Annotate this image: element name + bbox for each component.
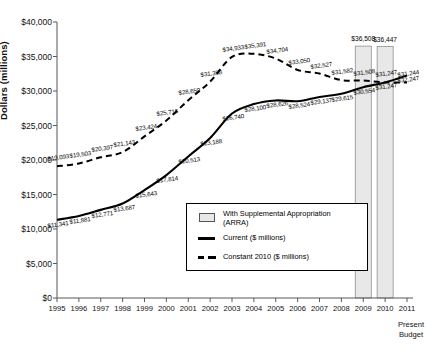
chart-legend: With Supplemental Appropriation (ARRA) C… xyxy=(186,203,368,271)
y-axis-tick-label: $15,000 xyxy=(4,190,52,200)
legend-bar-label-line1: With Supplemental Appropriation xyxy=(223,209,331,218)
y-axis-tick-label: $25,000 xyxy=(4,121,52,131)
y-axis-tick-label: $40,000 xyxy=(4,17,52,27)
y-axis-tick-label: $10,000 xyxy=(4,224,52,234)
y-axis-tick-label: $35,000 xyxy=(4,52,52,62)
legend-bar-swatch xyxy=(199,213,215,222)
x-axis-tick-label: 2011 xyxy=(394,304,420,313)
legend-dashed-swatch xyxy=(198,256,216,259)
present-budget-note: PresentBudget xyxy=(391,320,431,340)
y-axis-tick-label: $0 xyxy=(4,293,52,303)
legend-current-label: Current ($ millions) xyxy=(223,233,285,242)
chart-canvas xyxy=(0,0,432,353)
y-axis-tick-label: $30,000 xyxy=(4,86,52,96)
legend-solid-swatch xyxy=(198,237,215,240)
legend-bar-label-line2: (ARRA) xyxy=(223,218,248,227)
legend-bar-label: With Supplemental Appropriation (ARRA) xyxy=(223,209,363,227)
y-axis-tick-label: $5,000 xyxy=(4,259,52,269)
legend-constant-label: Constant 2010 ($ millions) xyxy=(223,252,309,261)
bar-value-label: $36,447 xyxy=(362,36,408,43)
y-axis-tick-label: $20,000 xyxy=(4,155,52,165)
